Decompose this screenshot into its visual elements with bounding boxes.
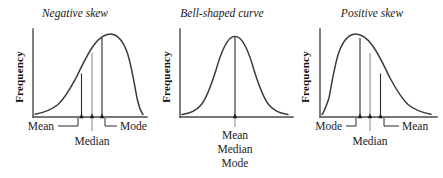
y-axis-label-negative: Frequency: [13, 51, 25, 103]
label-mean-bell: Mean: [222, 129, 248, 141]
tick-center-bell: [233, 114, 237, 119]
label-mode-bell: Mode: [222, 157, 249, 169]
y-axis-label-bell: Frequency: [160, 51, 172, 103]
skewness-figure: Negative skew Frequency Mean Median Mode…: [0, 0, 443, 178]
curve-negative-skew: [35, 34, 143, 114]
panel-title-negative: Negative skew: [41, 7, 108, 20]
panel-title-bell: Bell-shaped curve: [180, 7, 263, 20]
positive-skew-plot: Positive skew Frequency Mode Median Mean: [295, 0, 443, 178]
leader-mode-negative: [105, 118, 117, 126]
tick-mode-negative: [100, 114, 104, 119]
label-mode-negative: Mode: [120, 120, 147, 132]
panel-positive-skew: Positive skew Frequency Mode Median Mean: [295, 0, 443, 178]
y-axis-label-positive: Frequency: [299, 51, 311, 103]
tick-mean-positive: [378, 114, 382, 119]
tick-mode-positive: [358, 114, 362, 119]
tick-median-positive: [368, 114, 372, 119]
tick-median-negative: [90, 114, 94, 119]
label-median-bell: Median: [217, 143, 252, 155]
label-mean-positive: Mean: [402, 120, 428, 132]
label-median-positive: Median: [352, 135, 387, 147]
leader-mode-positive: [346, 118, 356, 126]
curve-positive-skew: [322, 34, 431, 114]
bell-curve-plot: Bell-shaped curve Frequency Mean Median …: [148, 0, 296, 178]
negative-skew-plot: Negative skew Frequency Mean Median Mode: [0, 0, 150, 178]
panel-title-positive: Positive skew: [340, 7, 404, 19]
tick-mean-negative: [79, 114, 83, 119]
label-mode-positive: Mode: [315, 120, 342, 132]
label-mean-negative: Mean: [28, 120, 54, 132]
label-median-negative: Median: [74, 135, 109, 147]
leader-mean-positive: [384, 118, 399, 126]
leader-mean-negative: [58, 118, 78, 126]
panel-bell-shaped-curve: Bell-shaped curve Frequency Mean Median …: [148, 0, 296, 178]
panel-negative-skew: Negative skew Frequency Mean Median Mode: [0, 0, 150, 178]
